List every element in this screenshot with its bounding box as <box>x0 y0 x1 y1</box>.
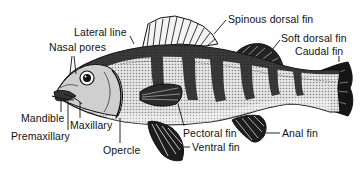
label-ventral-fin: Ventral fin <box>192 142 240 153</box>
label-opercle: Opercle <box>103 145 140 156</box>
fish-illustration <box>0 0 362 178</box>
label-pectoral-fin: Pectoral fin <box>183 128 237 139</box>
label-nasal-pores: Nasal pores <box>49 42 106 53</box>
anal-fin-shape <box>232 115 266 142</box>
fish-anatomy-diagram: Lateral line Nasal pores Spinous dorsal … <box>0 0 362 178</box>
ventral-fin-shape <box>148 121 184 161</box>
label-premaxillary: Premaxillary <box>11 131 70 142</box>
label-mandible: Mandible <box>21 113 64 124</box>
label-maxillary: Maxillary <box>70 120 112 131</box>
label-lateral-line: Lateral line <box>74 27 127 38</box>
label-spinous-dorsal-fin: Spinous dorsal fin <box>228 14 313 25</box>
label-caudal-fin: Caudal fin <box>295 46 343 57</box>
label-soft-dorsal-fin: Soft dorsal fin <box>281 33 347 44</box>
head-shape <box>52 64 123 118</box>
label-anal-fin: Anal fin <box>282 128 318 139</box>
